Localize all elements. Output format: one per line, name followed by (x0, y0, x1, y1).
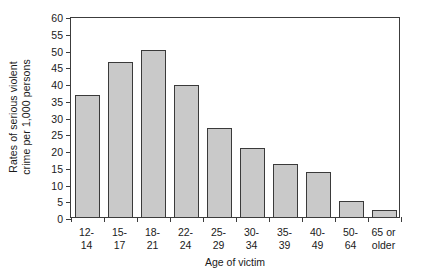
y-tick-label: 15 (51, 163, 63, 175)
bar (207, 128, 233, 217)
x-tick-label-line: 25- (202, 226, 235, 239)
x-tick-label-line: 24 (169, 239, 202, 252)
y-tick-mark (66, 102, 71, 103)
y-tick-label: 45 (51, 62, 63, 74)
x-tick-mark (368, 217, 369, 222)
x-tick-label-line: 64 (334, 239, 367, 252)
plot-inner: 051015202530354045505560 (71, 18, 399, 217)
bar (306, 172, 332, 217)
bar (75, 95, 101, 217)
x-tick-label: 15-17 (103, 226, 136, 251)
x-tick-mark (170, 217, 171, 222)
plot-area: 051015202530354045505560 (70, 17, 400, 218)
x-tick-mark (137, 217, 138, 222)
x-tick-label-line: 65 or (367, 226, 400, 239)
y-tick-label: 0 (57, 213, 63, 225)
x-tick-label-line: 12- (70, 226, 103, 239)
y-tick-mark (66, 119, 71, 120)
x-tick-label-line: 35- (268, 226, 301, 239)
y-tick-mark (66, 85, 71, 86)
x-tick-label-line: 30- (235, 226, 268, 239)
x-tick-label: 50-64 (334, 226, 367, 251)
x-tick-label: 25-29 (202, 226, 235, 251)
x-tick-mark (401, 217, 402, 222)
bar (240, 148, 266, 217)
x-tick-mark (71, 217, 72, 222)
x-tick-mark (203, 217, 204, 222)
y-tick-mark (66, 18, 71, 19)
y-tick-label: 5 (57, 196, 63, 208)
x-tick-label: 65 orolder (367, 226, 400, 251)
y-tick-label: 20 (51, 146, 63, 158)
x-tick-label-line: 17 (103, 239, 136, 252)
y-tick-label: 55 (51, 29, 63, 41)
y-tick-label: 40 (51, 79, 63, 91)
x-tick-mark (335, 217, 336, 222)
x-tick-mark (269, 217, 270, 222)
x-tick-label: 40-49 (301, 226, 334, 251)
x-tick-label-line: 15- (103, 226, 136, 239)
x-tick-label-line: 39 (268, 239, 301, 252)
x-tick-mark (104, 217, 105, 222)
y-tick-label: 50 (51, 46, 63, 58)
x-tick-label: 22-24 (169, 226, 202, 251)
y-tick-label: 35 (51, 96, 63, 108)
x-tick-label: 30-34 (235, 226, 268, 251)
x-tick-label-line: 34 (235, 239, 268, 252)
y-tick-mark (66, 169, 71, 170)
x-tick-mark (236, 217, 237, 222)
y-tick-label: 10 (51, 180, 63, 192)
x-axis-title: Age of victim (70, 256, 400, 268)
y-tick-mark (66, 35, 71, 36)
bar (174, 85, 200, 217)
x-tick-label-line: 49 (301, 239, 334, 252)
y-tick-label: 30 (51, 113, 63, 125)
y-tick-label: 25 (51, 129, 63, 141)
x-tick-label-line: 29 (202, 239, 235, 252)
y-tick-mark (66, 68, 71, 69)
x-tick-label: 12-14 (70, 226, 103, 251)
bar (372, 210, 398, 217)
x-tick-label: 35-39 (268, 226, 301, 251)
bar-chart-figure: Rates of serious violent crime per 1,000… (0, 0, 424, 277)
bar (141, 50, 167, 218)
x-tick-label-line: 22- (169, 226, 202, 239)
x-tick-label-line: 14 (70, 239, 103, 252)
y-tick-mark (66, 202, 71, 203)
y-axis-title-line-1: Rates of serious violent (7, 61, 20, 173)
y-tick-label: 60 (51, 12, 63, 24)
y-tick-mark (66, 135, 71, 136)
y-axis-title: Rates of serious violent crime per 1,000… (0, 0, 40, 220)
bar (339, 201, 365, 217)
bar (273, 164, 299, 217)
x-tick-mark (302, 217, 303, 222)
x-tick-label-line: 40- (301, 226, 334, 239)
y-tick-mark (66, 152, 71, 153)
y-tick-mark (66, 186, 71, 187)
x-tick-label-line: older (367, 239, 400, 252)
x-tick-label-line: 50- (334, 226, 367, 239)
y-tick-mark (66, 52, 71, 53)
bar (108, 62, 134, 217)
x-tick-label: 18-21 (136, 226, 169, 251)
y-axis-title-line-2: crime per 1,000 persons (20, 59, 33, 175)
x-tick-label-line: 21 (136, 239, 169, 252)
x-tick-label-line: 18- (136, 226, 169, 239)
